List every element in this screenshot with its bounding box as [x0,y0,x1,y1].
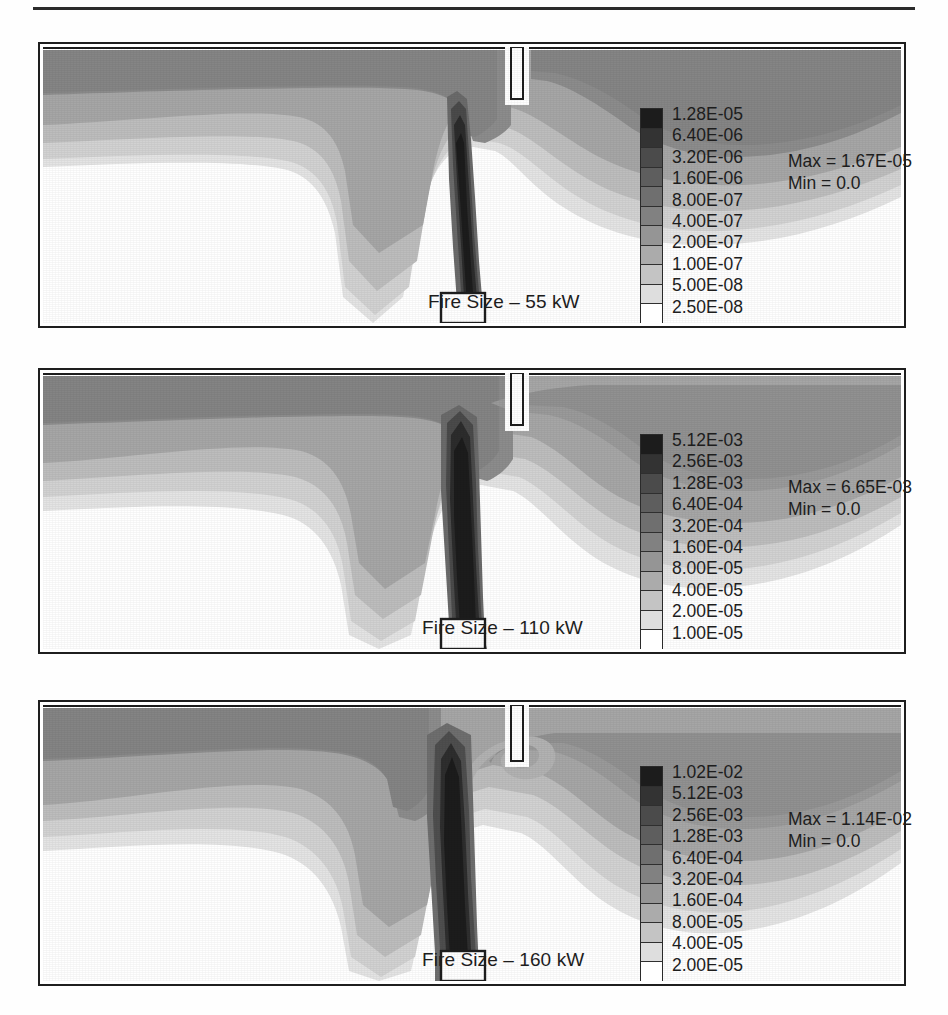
plot-area [43,705,901,981]
legend-band [641,129,662,149]
legend-label-list: 5.12E-032.56E-031.28E-036.40E-043.20E-04… [672,430,743,644]
legend-tick-label: 2.00E-05 [672,955,743,976]
contour-field [43,705,901,981]
plot-area [43,47,901,323]
legend-band [641,865,662,885]
legend-band [641,943,662,963]
legend-tick-label: 3.20E-04 [672,516,743,537]
legend-band [641,304,662,324]
legend-tick-label: 6.40E-04 [672,848,743,869]
legend-band [641,591,662,611]
fire-size-label: Fire Size – 110 kW [422,617,583,639]
legend-tick-label: 8.00E-05 [672,912,743,933]
legend-tick-label: 3.20E-04 [672,869,743,890]
legend-tick-label: 6.40E-06 [672,125,743,146]
legend-tick-label: 4.00E-05 [672,580,743,601]
legend-max-value: Max = 1.67E-05 [788,150,912,172]
legend-band [641,767,662,787]
legend-band [641,265,662,285]
legend-min-value: Min = 0.0 [788,498,912,520]
legend-tick-label: 2.50E-08 [672,297,743,318]
legend-tick-label: 5.12E-03 [672,430,743,451]
legend-band [641,285,662,305]
legend-tick-label: 2.00E-05 [672,601,743,622]
contour-panel-55kw: Fire Size – 55 kW 1.28E-056.40E-063.20E-… [38,42,906,328]
legend-tick-label: 1.02E-02 [672,762,743,783]
legend-band [641,806,662,826]
legend-tick-label: 2.56E-03 [672,805,743,826]
legend-band [641,962,662,982]
fire-size-label: Fire Size – 55 kW [428,291,580,313]
legend-band [641,923,662,943]
legend-tick-label: 1.60E-06 [672,168,743,189]
legend-tick-label: 1.60E-04 [672,537,743,558]
legend-tick-label: 1.00E-07 [672,254,743,275]
legend-band [641,611,662,631]
legend-band [641,826,662,846]
legend-band [641,226,662,246]
legend-tick-label: 5.12E-03 [672,783,743,804]
legend-band [641,435,662,455]
legend-band [641,207,662,227]
legend-band [641,787,662,807]
legend-min-value: Min = 0.0 [788,172,912,194]
legend-color-bar [640,766,663,981]
legend-band [641,148,662,168]
plot-area [43,373,901,649]
legend-tick-label: 2.00E-07 [672,232,743,253]
legend-band [641,168,662,188]
legend-band [641,572,662,592]
legend-band [641,904,662,924]
legend-color-bar [640,434,663,649]
legend-band [641,187,662,207]
legend-tick-label: 2.56E-03 [672,451,743,472]
legend-band [641,552,662,572]
legend-band [641,884,662,904]
legend-band [641,845,662,865]
top-divider-rule [33,7,915,10]
legend-max-value: Max = 6.65E-03 [788,476,912,498]
legend-band [641,494,662,514]
legend-band [641,455,662,475]
legend-tick-label: 5.00E-08 [672,275,743,296]
legend-label-list: 1.02E-025.12E-032.56E-031.28E-036.40E-04… [672,762,743,976]
legend-label-list: 1.28E-056.40E-063.20E-061.60E-068.00E-07… [672,104,743,318]
legend-tick-label: 1.28E-05 [672,104,743,125]
contour-field [43,373,901,649]
legend-band [641,109,662,129]
legend-tick-label: 4.00E-05 [672,933,743,954]
legend-stats: Max = 6.65E-03 Min = 0.0 [788,476,912,520]
legend-band [641,513,662,533]
legend-color-bar [640,108,663,323]
legend-tick-label: 1.00E-05 [672,623,743,644]
legend-min-value: Min = 0.0 [788,830,912,852]
legend-tick-label: 8.00E-05 [672,558,743,579]
legend-tick-label: 4.00E-07 [672,211,743,232]
legend-tick-label: 1.60E-04 [672,890,743,911]
legend-band [641,246,662,266]
legend-band [641,474,662,494]
legend-tick-label: 1.28E-03 [672,473,743,494]
legend-max-value: Max = 1.14E-02 [788,808,912,830]
legend-tick-label: 8.00E-07 [672,190,743,211]
legend-band [641,533,662,553]
fire-size-label: Fire Size – 160 kW [422,949,584,971]
legend-stats: Max = 1.14E-02 Min = 0.0 [788,808,912,852]
figure-page: Fire Size – 55 kW 1.28E-056.40E-063.20E-… [0,0,948,1015]
legend-tick-label: 3.20E-06 [672,147,743,168]
contour-panel-110kw: Fire Size – 110 kW 5.12E-032.56E-031.28E… [38,368,906,654]
legend-band [641,630,662,650]
legend-tick-label: 6.40E-04 [672,494,743,515]
legend-stats: Max = 1.67E-05 Min = 0.0 [788,150,912,194]
legend-tick-label: 1.28E-03 [672,826,743,847]
contour-panel-160kw: Fire Size – 160 kW 1.02E-025.12E-032.56E… [38,700,906,986]
contour-field [43,47,901,323]
